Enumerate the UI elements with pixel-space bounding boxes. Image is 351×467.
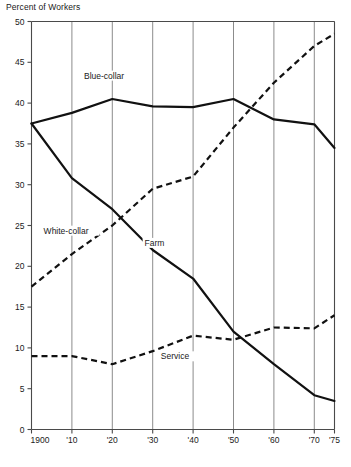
y-axis: 05101520253035404550: [15, 17, 31, 435]
series-label-farm: Farm: [145, 238, 165, 248]
series-line-white-collar: [32, 34, 335, 287]
y-tick-label: 30: [15, 180, 25, 190]
x-tick-label: '30: [147, 435, 158, 445]
y-tick-label: 0: [20, 425, 25, 435]
x-tick-label: '40: [188, 435, 199, 445]
series-line-blue-collar: [32, 99, 335, 148]
data-series-group: [32, 34, 335, 401]
y-tick-label: 50: [15, 17, 25, 27]
y-tick-label: 20: [15, 261, 25, 271]
workforce-composition-chart: Percent of Workers 051015202530354045501…: [0, 0, 351, 467]
y-tick-label: 25: [15, 221, 25, 231]
y-tick-label: 45: [15, 57, 25, 67]
series-label-blue-collar: Blue-collar: [84, 71, 124, 81]
x-axis: 1900'10'20'30'40'50'60'70'75: [31, 430, 341, 445]
chart-plot-area: 051015202530354045501900'10'20'30'40'50'…: [0, 0, 351, 467]
x-tick-label: '10: [66, 435, 77, 445]
series-label-service: Service: [161, 351, 190, 361]
series-label-white-collar: White-collar: [44, 226, 89, 236]
x-tick-label: '75: [329, 435, 340, 445]
x-tick-label: '70: [309, 435, 320, 445]
y-tick-label: 40: [15, 98, 25, 108]
x-tick-label: '60: [268, 435, 279, 445]
y-tick-label: 35: [15, 139, 25, 149]
x-tick-label: '50: [228, 435, 239, 445]
y-tick-label: 15: [15, 302, 25, 312]
y-tick-label: 5: [20, 384, 25, 394]
x-tick-label: 1900: [31, 435, 50, 445]
x-tick-label: '20: [107, 435, 118, 445]
y-tick-label: 10: [15, 343, 25, 353]
